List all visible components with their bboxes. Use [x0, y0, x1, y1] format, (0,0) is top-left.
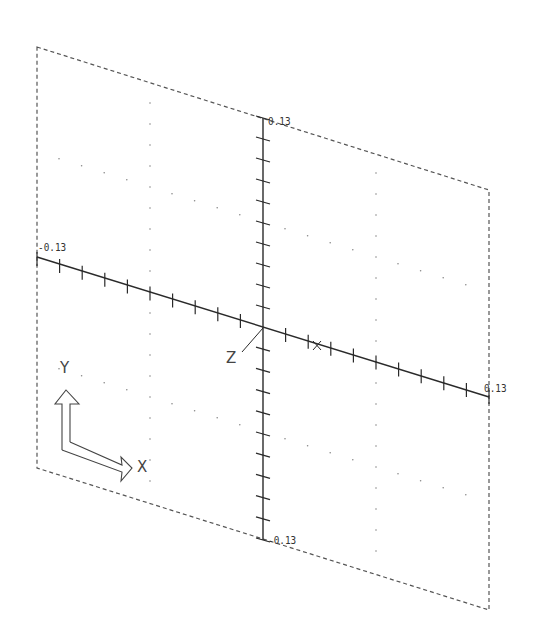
vertical-axis-max-label: 0.13	[268, 116, 291, 127]
ucs-icon	[55, 390, 132, 481]
z-axis-label: Z	[226, 351, 236, 366]
horizontal-axis-max-label: 0.13	[484, 383, 507, 394]
horizontal-axis-min-label: -0.13	[38, 242, 66, 253]
vertical-axis-min-label: -0.13	[268, 535, 296, 546]
ucs-x-label: X	[137, 460, 147, 475]
ucs-y-label: Y	[60, 361, 69, 376]
x-axis-marker-icon	[313, 341, 321, 350]
